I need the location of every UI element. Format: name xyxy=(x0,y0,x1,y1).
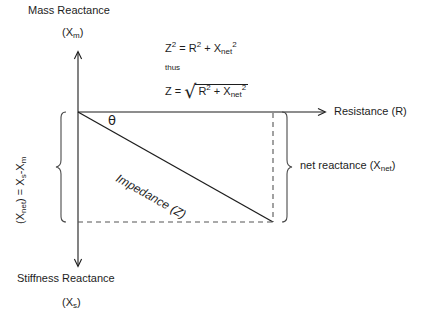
eq2-radicand: R2 + Xnet2 xyxy=(195,84,248,97)
equation-z-squared: Z2 = R2 + Xnet2 xyxy=(165,41,237,57)
xs-subscript-2: s xyxy=(19,174,28,178)
stiffness-reactance-label: Stiffness Reactance xyxy=(17,272,115,284)
stiffness-reactance-symbol: (Xs) xyxy=(62,296,81,311)
net-reactance-subscript: net xyxy=(381,164,392,173)
xnet-subscript: net xyxy=(19,202,28,213)
net-reactance-text: net reactance (X xyxy=(300,159,381,171)
xnet-minus: -X xyxy=(14,163,26,174)
xnet-mid: ) = X xyxy=(14,178,26,202)
impedance-vector-diagram: Mass Reactance (Xm) Stiffness Reactance … xyxy=(0,0,443,324)
xm-close: ) xyxy=(80,26,84,38)
xnet-open: (X xyxy=(14,213,26,224)
eq1-x-exponent: 2 xyxy=(232,40,236,49)
net-reactance-brace-label: net reactance (Xnet) xyxy=(300,159,396,174)
net-reactance-close: ) xyxy=(392,159,396,171)
eq2-x-exponent: 2 xyxy=(242,83,246,92)
eq1-equals-r: = R xyxy=(176,42,196,54)
xnet-definition-label: (Xnet) = Xs-Xm xyxy=(14,157,29,224)
xm-open: (X xyxy=(62,26,73,38)
eq2-z-equals: Z = xyxy=(165,85,184,97)
theta-angle-label: θ xyxy=(108,114,116,128)
eq2-plus-x: + X xyxy=(211,85,231,97)
eq2-x-subscript: net xyxy=(231,90,242,99)
equation-z-root: Z = √R2 + Xnet2 xyxy=(165,81,248,102)
eq1-z: Z xyxy=(165,42,172,54)
xm-subscript-2: m xyxy=(19,157,28,164)
xs-open: (X xyxy=(62,296,73,308)
mass-reactance-label: Mass Reactance xyxy=(28,4,110,16)
xs-close: ) xyxy=(77,296,81,308)
mass-reactance-symbol: (Xm) xyxy=(62,26,83,41)
right-brace xyxy=(282,112,292,222)
xm-subscript: m xyxy=(73,31,80,40)
eq1-x-subscript: net xyxy=(221,47,232,56)
left-brace xyxy=(56,112,66,222)
resistance-axis-label: Resistance (R) xyxy=(334,105,407,117)
eq1-plus-x: + X xyxy=(201,42,221,54)
thus-label: thus xyxy=(165,64,180,73)
